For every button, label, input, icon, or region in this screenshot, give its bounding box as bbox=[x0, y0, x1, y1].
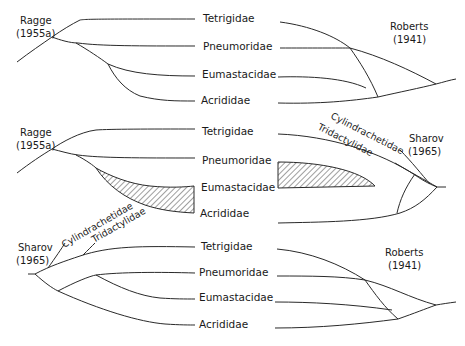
label-eumastacidae-2: Eumastacidae bbox=[201, 181, 275, 193]
year-ragge: (1955a) bbox=[16, 28, 55, 39]
label-tetrigidae-3: Tetrigidae bbox=[200, 240, 253, 252]
label-pneumoridae-2: Pneumoridae bbox=[202, 154, 271, 166]
label-eumastacidae: Eumastacidae bbox=[202, 68, 276, 80]
year-ragge-2: (1955a) bbox=[16, 140, 55, 151]
label-pneumoridae: Pneumoridae bbox=[203, 40, 272, 52]
year-roberts: (1941) bbox=[393, 34, 426, 45]
tree-roberts-top bbox=[278, 22, 456, 103]
author-sharov: Sharov bbox=[409, 133, 444, 144]
label-acrididae-2: Acrididae bbox=[200, 207, 249, 219]
year-roberts-bottom: (1941) bbox=[388, 260, 421, 271]
author-roberts-bottom: Roberts bbox=[385, 247, 423, 258]
panel-top: Ragge (1955a) Tetrigidae Pneumoridae Eum… bbox=[16, 12, 456, 106]
cladogram-figure: Ragge (1955a) Tetrigidae Pneumoridae Eum… bbox=[0, 0, 465, 346]
label-eumastacidae-3: Eumastacidae bbox=[199, 291, 273, 303]
panel-bottom: Sharov (1965) Cylindrachetidae Tridactyl… bbox=[16, 200, 456, 330]
hatched-region-left bbox=[96, 168, 194, 213]
author-ragge-2: Ragge bbox=[20, 127, 52, 138]
label-acrididae: Acrididae bbox=[201, 94, 250, 106]
label-tetrigidae: Tetrigidae bbox=[202, 12, 255, 24]
author-sharov-bottom: Sharov bbox=[18, 242, 53, 253]
tree-sharov-bottom bbox=[28, 243, 195, 325]
year-sharov: (1965) bbox=[408, 146, 441, 157]
panel-middle: Ragge (1955a) Tetrigidae Pneumoridae Eum… bbox=[16, 110, 446, 223]
label-acrididae-3: Acrididae bbox=[199, 318, 248, 330]
author-roberts: Roberts bbox=[390, 21, 428, 32]
author-ragge: Ragge bbox=[20, 15, 52, 26]
label-pneumoridae-3: Pneumoridae bbox=[199, 266, 268, 278]
label-tetrigidae-2: Tetrigidae bbox=[201, 125, 254, 137]
tree-roberts-bottom bbox=[275, 249, 456, 328]
year-sharov-bottom: (1965) bbox=[16, 255, 49, 266]
hatched-region-right bbox=[278, 162, 375, 188]
